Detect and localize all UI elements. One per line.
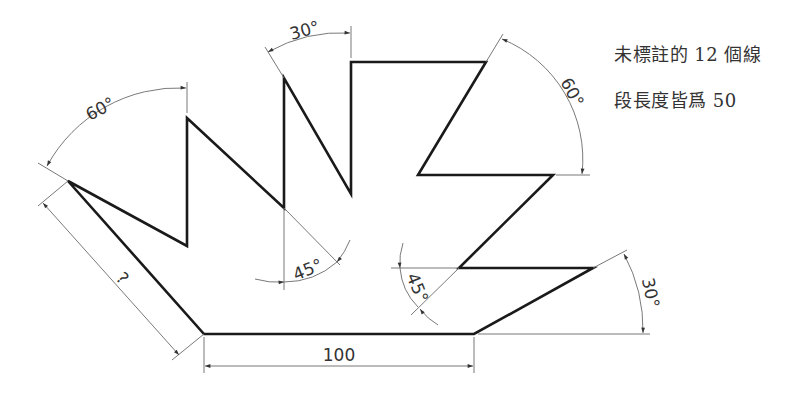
- angle-45-right-label: 45°: [403, 270, 433, 305]
- note-line-1: 未標註的 12 個線: [614, 40, 761, 66]
- dimension-angle-top-right: 60°: [486, 34, 590, 175]
- angle-45-center-label: 45°: [290, 255, 325, 285]
- dimension-angle-top-middle: 30°: [265, 17, 351, 78]
- angle-60-right-label: 60°: [556, 74, 588, 110]
- base-length-label: 100: [323, 345, 355, 365]
- dimension-angle-top-left: 60°: [38, 82, 187, 181]
- dimension-unknown: ?: [38, 181, 204, 360]
- note-line-2: 段長度皆爲 50: [614, 86, 737, 112]
- unknown-length-label: ?: [112, 268, 133, 288]
- angle-60-left-label: 60°: [82, 93, 118, 125]
- angle-30-top-label: 30°: [287, 17, 321, 44]
- angle-30-bottom-label: 30°: [638, 276, 664, 310]
- zigzag-polygon: [68, 62, 593, 334]
- dimension-angle-bottom-right: 30°: [478, 250, 664, 334]
- dimension-angle-center-right: 45°: [391, 243, 459, 325]
- dimension-base: 100: [204, 337, 474, 373]
- dimension-angle-center-left: 45°: [255, 208, 350, 290]
